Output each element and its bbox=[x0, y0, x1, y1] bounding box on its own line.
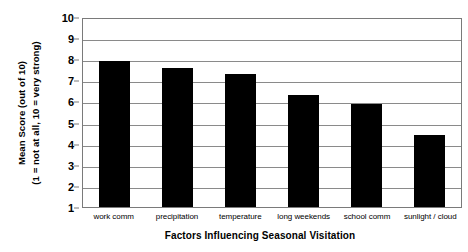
y-tick-mark bbox=[74, 102, 79, 103]
y-axis-title-line-2: (1 = not at all, 10 = very strong) bbox=[29, 41, 43, 184]
x-tick-label: temperature bbox=[209, 210, 272, 226]
y-tick-mark bbox=[74, 144, 79, 145]
y-axis-title-line-1: Mean Score (out of 10) bbox=[15, 41, 29, 184]
x-axis-ticks: work commprecipitationtemperaturelong we… bbox=[82, 210, 462, 226]
plot-area bbox=[82, 18, 462, 208]
x-tick-label: work comm bbox=[82, 210, 145, 226]
y-axis-ticks: 10987654321 bbox=[58, 18, 78, 208]
bar bbox=[99, 61, 130, 207]
y-tick-mark bbox=[74, 208, 79, 209]
y-tick-mark bbox=[74, 18, 79, 19]
bar-series bbox=[83, 19, 461, 207]
bar bbox=[414, 135, 445, 207]
bar-slot bbox=[272, 19, 335, 207]
y-tick-mark bbox=[74, 60, 79, 61]
bar bbox=[162, 68, 193, 207]
bar bbox=[225, 74, 256, 207]
bar bbox=[351, 104, 382, 207]
bar bbox=[288, 95, 319, 207]
bar-slot bbox=[335, 19, 398, 207]
bar-chart: Mean Score (out of 10) (1 = not at all, … bbox=[0, 0, 468, 252]
x-tick-label: school comm bbox=[335, 210, 398, 226]
x-tick-label: long weekends bbox=[272, 210, 335, 226]
y-tick-label: 10 bbox=[62, 12, 74, 24]
x-tick-label: sunlight / cloud bbox=[399, 210, 462, 226]
bar-slot bbox=[398, 19, 461, 207]
x-tick-label: precipitation bbox=[145, 210, 208, 226]
y-axis-title: Mean Score (out of 10) (1 = not at all, … bbox=[0, 0, 58, 226]
y-tick-mark bbox=[74, 39, 79, 40]
bar-slot bbox=[209, 19, 272, 207]
y-tick-mark bbox=[74, 81, 79, 82]
y-tick-mark bbox=[74, 123, 79, 124]
y-tick-mark bbox=[74, 186, 79, 187]
bar-slot bbox=[83, 19, 146, 207]
bar-slot bbox=[146, 19, 209, 207]
y-tick-mark bbox=[74, 165, 79, 166]
x-axis-title: Factors Influencing Seasonal Visitation bbox=[58, 230, 462, 241]
